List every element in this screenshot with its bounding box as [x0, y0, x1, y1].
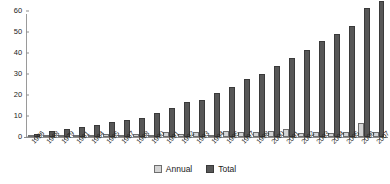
bar-group	[73, 11, 85, 137]
bar-total[interactable]	[124, 120, 130, 137]
x-axis-tick-mark	[214, 137, 215, 140]
x-axis-tick-mark	[379, 137, 380, 140]
y-axis-tick-label: 60	[0, 7, 26, 15]
bar-group	[283, 11, 295, 137]
bar-total[interactable]	[154, 113, 160, 137]
y-axis-tick-label: 10	[0, 112, 26, 120]
y-axis-tick-label: 30	[0, 70, 26, 78]
bar-chart: 0102030405060 19561968197919811984198519…	[0, 0, 390, 184]
chart-legend: Annual Total	[0, 165, 390, 174]
bar-group	[43, 11, 55, 137]
x-axis-tick-mark	[139, 137, 140, 140]
x-axis-tick-mark	[364, 137, 365, 140]
bar-group	[178, 11, 190, 137]
x-axis-tick-mark	[199, 137, 200, 140]
bar-total[interactable]	[94, 125, 100, 137]
x-axis-tick-mark	[349, 137, 350, 140]
total-swatch-icon	[206, 165, 214, 173]
x-axis-tick-mark	[109, 137, 110, 140]
x-axis-tick-mark	[319, 137, 320, 140]
bar-total[interactable]	[184, 102, 190, 137]
bar-group	[103, 11, 115, 137]
bar-series-container	[27, 11, 386, 137]
bar-group	[328, 11, 340, 137]
bar-group	[193, 11, 205, 137]
x-axis-tick-mark	[244, 137, 245, 140]
bar-total[interactable]	[319, 41, 325, 137]
x-axis-tick-mark	[154, 137, 155, 140]
bar-total[interactable]	[304, 50, 310, 137]
bar-total[interactable]	[259, 74, 265, 137]
bar-group	[268, 11, 280, 137]
bar-group	[253, 11, 265, 137]
y-axis-tick-label: 40	[0, 49, 26, 57]
bar-total[interactable]	[349, 26, 355, 137]
bar-total[interactable]	[274, 66, 280, 137]
bar-total[interactable]	[379, 1, 385, 138]
x-axis-tick-mark	[49, 137, 50, 140]
bar-total[interactable]	[334, 34, 340, 137]
bar-group	[88, 11, 100, 137]
x-axis-tick-mark	[94, 137, 95, 140]
bar-total[interactable]	[139, 118, 145, 137]
bar-group	[358, 11, 370, 137]
bar-total[interactable]	[364, 8, 370, 137]
bar-total[interactable]	[64, 129, 70, 137]
y-axis-tick-label: 0	[0, 133, 26, 141]
x-axis-tick-mark	[274, 137, 275, 140]
x-axis-tick-mark	[259, 137, 260, 140]
bar-total[interactable]	[229, 87, 235, 137]
x-axis-tick-mark	[334, 137, 335, 140]
x-axis-tick-mark	[289, 137, 290, 140]
bar-group	[148, 11, 160, 137]
bar-group	[298, 11, 310, 137]
bar-total[interactable]	[79, 127, 85, 137]
x-axis-tick-mark	[229, 137, 230, 140]
bar-group	[238, 11, 250, 137]
bar-total[interactable]	[289, 58, 295, 137]
bar-group	[343, 11, 355, 137]
x-axis-tick-mark	[184, 137, 185, 140]
annual-swatch-icon	[154, 165, 162, 173]
x-axis-tick-mark	[169, 137, 170, 140]
bar-total[interactable]	[214, 93, 220, 137]
x-axis-tick-mark	[124, 137, 125, 140]
bar-group	[313, 11, 325, 137]
x-axis-tick-mark	[304, 137, 305, 140]
legend-item-annual[interactable]: Annual	[154, 165, 192, 174]
bar-group	[373, 11, 385, 137]
x-axis-tick-mark	[79, 137, 80, 140]
bar-total[interactable]	[244, 79, 250, 137]
bar-group	[223, 11, 235, 137]
legend-label-annual: Annual	[166, 165, 192, 174]
bar-group	[163, 11, 175, 137]
bar-group	[28, 11, 40, 137]
bar-group	[58, 11, 70, 137]
legend-item-total[interactable]: Total	[206, 165, 236, 174]
bar-total[interactable]	[199, 100, 205, 137]
x-axis-tick-mark	[64, 137, 65, 140]
bar-group	[208, 11, 220, 137]
x-axis-tick-mark	[34, 137, 35, 140]
bar-group	[118, 11, 130, 137]
y-axis-tick-label: 20	[0, 91, 26, 99]
bar-group	[133, 11, 145, 137]
legend-label-total: Total	[218, 165, 236, 174]
bar-total[interactable]	[169, 108, 175, 137]
bar-total[interactable]	[109, 122, 115, 137]
y-axis-tick-label: 50	[0, 28, 26, 36]
